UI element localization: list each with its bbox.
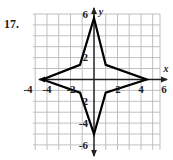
- tick-label-y-2: 2: [83, 51, 89, 63]
- graph-svg: -4 -4 -2 2 4 6 6 2 2 -4 -6 x y: [0, 0, 173, 160]
- tick-label-y--4: -4: [79, 117, 89, 129]
- tick-label-x-left-edge: -4: [23, 83, 33, 95]
- axis-names: x y: [98, 6, 169, 74]
- tick-label-x-6: 6: [161, 83, 167, 95]
- tick-label-x-2: 2: [115, 83, 121, 95]
- x-axis-label: x: [163, 63, 169, 74]
- tick-label-x--4: -4: [42, 83, 52, 95]
- tick-label-x-4: 4: [138, 83, 144, 95]
- tick-label-y--6: -6: [79, 139, 89, 151]
- y-axis-label: y: [98, 6, 104, 17]
- tick-label-x--2: -2: [66, 83, 76, 95]
- coordinate-graph: -4 -4 -2 2 4 6 6 2 2 -4 -6 x y: [0, 0, 173, 160]
- exercise-figure: 17.: [0, 0, 173, 160]
- tick-label-y--2: 2: [83, 95, 89, 107]
- tick-label-y-6: 6: [83, 8, 89, 20]
